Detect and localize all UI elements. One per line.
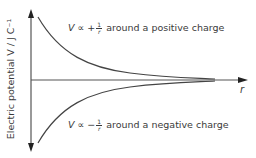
y-axis-arrow-down-icon — [28, 143, 34, 152]
y-axis-label: Electric potential V / J C⁻¹ — [5, 19, 16, 140]
positive-charge-annotation: V ∝ +1r around a positive charge — [68, 22, 224, 35]
annotation-text: around a positive charge — [103, 22, 224, 33]
x-axis-arrow-icon — [238, 77, 248, 83]
negative-charge-curve — [38, 81, 215, 143]
fraction: 1r — [96, 22, 102, 35]
proportional-sign: ∝ − — [75, 119, 96, 130]
negative-charge-annotation: V ∝ −1r around a negative charge — [68, 119, 229, 132]
annotation-text: around a negative charge — [103, 119, 229, 130]
fraction: 1r — [96, 119, 102, 132]
x-axis-label: r — [240, 84, 244, 95]
y-axis-arrow-up-icon — [28, 9, 34, 18]
proportional-sign: ∝ + — [75, 22, 96, 33]
